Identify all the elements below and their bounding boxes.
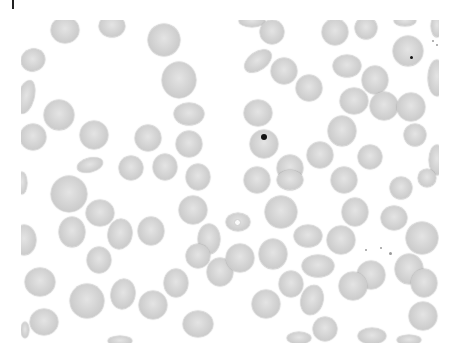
red-blood-cell (44, 100, 74, 130)
debris-particle (380, 247, 382, 249)
red-blood-cell (322, 20, 348, 45)
red-blood-cell (139, 291, 167, 319)
red-blood-cell (86, 200, 114, 226)
red-blood-cell (307, 142, 333, 168)
red-blood-cell (259, 239, 287, 269)
red-blood-cell (21, 322, 29, 338)
red-blood-cell (428, 60, 439, 96)
debris-particle (365, 249, 367, 251)
red-blood-cell (339, 272, 367, 300)
red-blood-cell (411, 269, 437, 297)
red-blood-cell (153, 154, 177, 180)
red-blood-cell (21, 46, 48, 75)
red-blood-cell (21, 172, 27, 194)
red-blood-cell (362, 66, 388, 94)
red-blood-cell (397, 93, 425, 121)
red-blood-cell (333, 55, 361, 77)
red-blood-cell (271, 58, 297, 84)
red-blood-cell (179, 196, 207, 224)
red-blood-cell (135, 125, 161, 151)
red-blood-cell (21, 124, 46, 150)
red-blood-cell (174, 103, 204, 125)
micrograph-image (21, 20, 439, 343)
red-blood-cell (162, 62, 196, 98)
red-blood-cell (186, 164, 210, 190)
red-blood-cell (226, 244, 254, 272)
red-blood-cell (176, 131, 202, 157)
red-blood-cell (21, 225, 36, 255)
red-blood-cell (313, 317, 337, 341)
red-blood-cell (87, 247, 111, 273)
red-blood-cell (277, 170, 303, 190)
red-blood-cell (381, 206, 407, 230)
red-blood-cell (279, 271, 303, 297)
red-blood-cell (260, 20, 284, 44)
red-blood-cell (397, 335, 421, 343)
debris-particle (432, 40, 434, 42)
red-blood-cell (265, 196, 297, 228)
red-blood-cell (340, 88, 368, 114)
red-blood-cell (99, 20, 125, 37)
debris-particle (436, 44, 438, 46)
red-blood-cell (287, 332, 311, 343)
red-blood-cell (358, 328, 386, 343)
red-blood-cell (51, 20, 79, 43)
inclusion-body (261, 134, 267, 140)
debris-particle (389, 252, 392, 255)
red-blood-cell (138, 217, 164, 245)
red-blood-cell (355, 20, 377, 39)
red-blood-cell (406, 222, 438, 254)
red-blood-cell (328, 116, 356, 146)
red-blood-cell (418, 169, 436, 187)
red-blood-cell (327, 226, 355, 254)
red-blood-cell (302, 255, 334, 277)
red-blood-cell (404, 124, 426, 146)
red-blood-cell (108, 336, 132, 343)
inclusion-dot (410, 56, 413, 59)
red-blood-cell (119, 156, 143, 180)
red-blood-cell (252, 290, 280, 318)
red-blood-cell (431, 20, 439, 37)
red-blood-cell (59, 217, 85, 247)
red-blood-cell (183, 311, 213, 337)
red-blood-cell (51, 176, 87, 212)
scale-tick-mark (12, 0, 14, 9)
red-blood-cell (109, 277, 138, 311)
red-blood-cell (393, 36, 423, 66)
red-blood-cell (296, 75, 322, 101)
red-blood-cell (358, 145, 382, 169)
red-blood-cell (164, 269, 188, 297)
red-blood-cell (80, 121, 108, 149)
red-blood-cell (331, 167, 357, 193)
red-blood-cell (370, 92, 398, 120)
red-blood-cell (21, 79, 38, 116)
red-blood-cell (244, 167, 270, 193)
red-blood-cell (390, 177, 412, 199)
red-blood-cell (30, 309, 58, 335)
red-blood-cell (25, 268, 55, 296)
red-blood-cell (394, 20, 416, 26)
red-blood-cell (76, 155, 105, 175)
red-blood-cell (148, 24, 180, 56)
red-blood-cell (409, 302, 437, 330)
pale-spot (234, 219, 241, 226)
red-blood-cell (70, 284, 104, 318)
red-blood-cell (342, 198, 368, 226)
red-blood-cell (294, 225, 322, 247)
red-blood-cell (186, 244, 210, 268)
red-blood-cell (244, 100, 272, 126)
